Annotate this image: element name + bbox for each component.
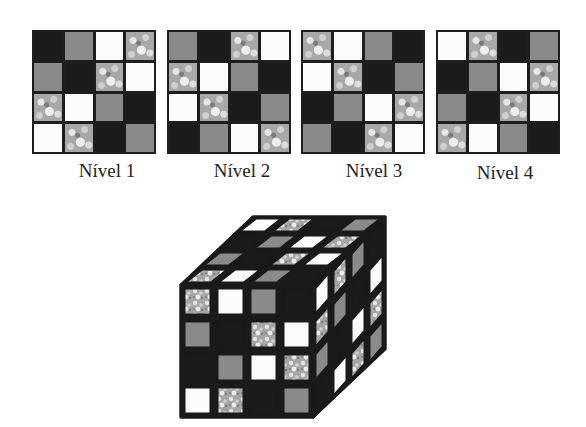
stacked-cube-illustration xyxy=(0,0,586,427)
